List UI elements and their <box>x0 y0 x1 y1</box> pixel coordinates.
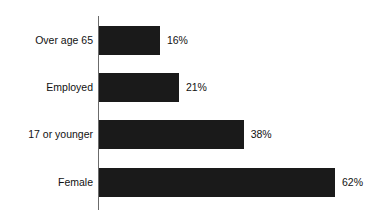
bar-group: 16% <box>99 25 188 55</box>
category-label: Employed <box>0 82 93 93</box>
bar-row: Employed 21% <box>0 72 378 102</box>
bar-value-label: 21% <box>186 82 207 93</box>
bar-group: 38% <box>99 119 272 149</box>
category-label: Female <box>0 177 93 188</box>
bar <box>99 73 179 102</box>
bar-group: 62% <box>99 167 363 197</box>
bar-row: Female 62% <box>0 167 378 197</box>
bar-row: Over age 65 16% <box>0 25 378 55</box>
category-label: 17 or younger <box>0 129 93 140</box>
bar <box>99 168 335 197</box>
bar-value-label: 62% <box>342 177 363 188</box>
bar-row: 17 or younger 38% <box>0 119 378 149</box>
bar-value-label: 16% <box>167 35 188 46</box>
bar <box>99 120 244 149</box>
bar <box>99 26 160 55</box>
category-label: Over age 65 <box>0 35 93 46</box>
bar-value-label: 38% <box>251 129 272 140</box>
bar-group: 21% <box>99 72 207 102</box>
plot-area: Over age 65 16% Employed 21% 17 or young… <box>0 0 378 222</box>
bar-chart: Over age 65 16% Employed 21% 17 or young… <box>0 0 378 222</box>
